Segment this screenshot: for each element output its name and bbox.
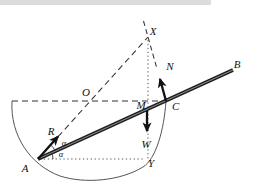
angle-arc-upper [51, 145, 56, 151]
label-force-N: N [165, 60, 174, 72]
label-point-M: M [135, 99, 146, 111]
rod-in-bowl-figure: A B C M O X Y R N W α α [0, 0, 254, 193]
label-force-R: R [47, 125, 55, 137]
label-point-X: X [149, 25, 158, 37]
mechanics-diagram: A B C M O X Y R N W α α [0, 0, 254, 193]
label-point-A: A [21, 162, 29, 174]
label-point-O: O [82, 86, 90, 98]
force-arrow-N [160, 79, 166, 101]
label-point-B: B [234, 58, 241, 70]
label-force-W: W [141, 138, 151, 150]
label-point-C: C [172, 100, 180, 112]
label-point-Y: Y [148, 157, 156, 169]
label-angle-upper-alpha: α [62, 138, 67, 148]
rod-AB-highlight [38, 70, 233, 159]
label-angle-lower-alpha: α [59, 149, 64, 159]
